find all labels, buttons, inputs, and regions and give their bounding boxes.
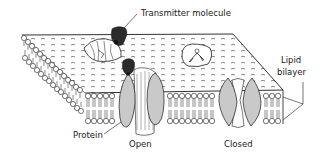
label-lipid: Lipid (281, 56, 301, 65)
lipid-bilayer-leader-lines (283, 82, 303, 120)
label-transmitter-molecule: Transmitter molecule (141, 9, 231, 18)
label-closed: Closed (224, 140, 253, 149)
label-bilayer: bilayer (277, 68, 306, 77)
membrane-illustration (0, 0, 323, 153)
receptor-top-view-unbound (182, 44, 212, 67)
label-open: Open (129, 140, 152, 149)
closed-channel (219, 78, 261, 128)
transmitter-leader-line (124, 14, 137, 28)
label-protein: Protein (73, 131, 103, 140)
membrane-diagram: Transmitter molecule Lipid bilayer Prote… (0, 0, 323, 153)
